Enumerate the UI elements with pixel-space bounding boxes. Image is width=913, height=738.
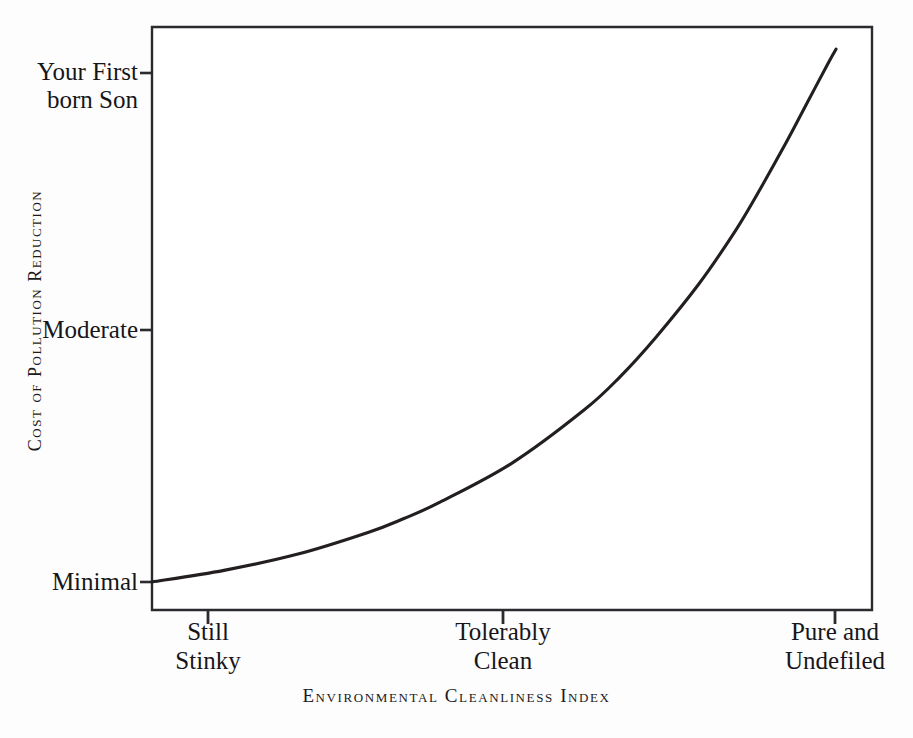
plot-area <box>152 27 872 610</box>
x-tick-label-pure-undefiled: Pure and Undefiled <box>705 617 913 675</box>
y-tick-label-firstborn-son: Your First born Son <box>0 58 138 114</box>
y-tick-label-minimal: Minimal <box>0 568 138 596</box>
x-tick-label-still-stinky: Still Stinky <box>78 617 338 675</box>
x-tick-label-tolerably-clean: Tolerably Clean <box>373 617 633 675</box>
chart-figure: Your First born Son Moderate Minimal Sti… <box>0 0 913 738</box>
y-tick-label-moderate: Moderate <box>0 316 138 344</box>
x-axis-title: Environmental Cleanliness Index <box>0 685 913 707</box>
y-axis-title: Cost of Pollution Reduction <box>25 101 46 541</box>
